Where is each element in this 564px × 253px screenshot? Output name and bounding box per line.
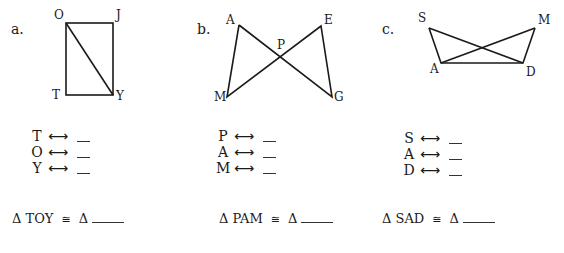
double-arrow-icon: ⟷ — [420, 130, 440, 146]
correspondence-row: A ⟷ — [402, 146, 462, 162]
congruence-statement-a: Δ TOY ≅ Δ — [12, 211, 124, 228]
vertex-label-y: Y — [116, 90, 124, 102]
correspondence-answer-blank[interactable] — [449, 165, 462, 176]
correspondence-row: A ⟷ — [216, 144, 276, 160]
correspondence-answer-blank[interactable] — [449, 149, 462, 160]
problem-c-label: c. — [382, 22, 394, 36]
congruent-icon: ≅ — [432, 212, 441, 228]
problem-b-label: b. — [197, 22, 210, 36]
double-arrow-icon: ⟷ — [420, 146, 440, 162]
correspondence-vertex: A — [402, 146, 416, 162]
correspondence-row: M ⟷ — [216, 160, 276, 176]
congruence-answer-blank[interactable] — [301, 212, 333, 223]
correspondence-answer-blank[interactable] — [263, 131, 276, 142]
correspondence-row: Y ⟷ — [30, 160, 90, 176]
triangle-name: PAM — [233, 211, 263, 227]
correspondence-row: P ⟷ — [216, 128, 276, 144]
vertex-label-g: G — [334, 91, 344, 103]
double-arrow-icon: ⟷ — [48, 144, 68, 160]
double-arrow-icon: ⟷ — [234, 160, 254, 176]
vertex-label-j: J — [116, 9, 121, 21]
figure-b-bowtie — [227, 25, 332, 97]
correspondence-answer-blank[interactable] — [263, 163, 276, 174]
correspondence-vertex: Y — [30, 160, 44, 176]
correspondence-answer-blank[interactable] — [263, 147, 276, 158]
congruence-answer-blank[interactable] — [92, 212, 124, 223]
triangle-name: TOY — [26, 211, 54, 227]
correspondence-vertex: M — [216, 160, 230, 176]
vertex-label-o: O — [54, 9, 64, 21]
vertex-label-t: T — [52, 89, 60, 101]
correspondence-row: T ⟷ — [30, 128, 90, 144]
double-arrow-icon: ⟷ — [234, 144, 254, 160]
problem-a-label: a. — [11, 22, 24, 36]
delta-icon: Δ — [12, 211, 21, 227]
double-arrow-icon: ⟷ — [48, 128, 68, 144]
vertex-label-s: S — [418, 12, 426, 24]
congruence-statement-c: Δ SAD ≅ Δ — [382, 211, 495, 228]
vertex-label-p: P — [277, 39, 285, 51]
vertex-label-a-c: A — [430, 63, 439, 75]
correspondence-vertex: D — [402, 162, 416, 178]
vertex-label-d: D — [526, 66, 536, 78]
vertex-label-a: A — [226, 14, 235, 26]
double-arrow-icon: ⟷ — [48, 160, 68, 176]
correspondence-answer-blank[interactable] — [449, 133, 462, 144]
vertex-label-m-c: M — [538, 14, 550, 26]
correspondence-vertex: S — [402, 130, 416, 146]
correspondence-answer-blank[interactable] — [77, 163, 90, 174]
delta-icon: Δ — [449, 211, 458, 227]
congruence-statement-b: Δ PAM ≅ Δ — [219, 211, 333, 228]
correspondence-row: S ⟷ — [402, 130, 462, 146]
correspondence-answer-blank[interactable] — [77, 147, 90, 158]
correspondence-vertex: T — [30, 128, 44, 144]
correspondence-vertex: A — [216, 144, 230, 160]
congruence-answer-blank[interactable] — [463, 212, 495, 223]
figure-a-rectangle — [66, 23, 113, 95]
double-arrow-icon: ⟷ — [234, 128, 254, 144]
correspondence-answer-blank[interactable] — [77, 131, 90, 142]
double-arrow-icon: ⟷ — [420, 162, 440, 178]
delta-icon: Δ — [288, 211, 297, 227]
correspondence-row: D ⟷ — [402, 162, 462, 178]
correspondence-vertex: P — [216, 128, 230, 144]
vertex-label-e: E — [324, 14, 333, 26]
congruent-icon: ≅ — [271, 212, 280, 228]
delta-icon: Δ — [219, 211, 228, 227]
figure-c-triangles — [429, 28, 535, 63]
correspondence-vertex: O — [30, 144, 44, 160]
delta-icon: Δ — [382, 211, 391, 227]
delta-icon: Δ — [79, 211, 88, 227]
triangle-name: SAD — [396, 211, 425, 227]
correspondence-row: O ⟷ — [30, 144, 90, 160]
vertex-label-m: M — [214, 91, 226, 103]
congruent-icon: ≅ — [61, 212, 70, 228]
